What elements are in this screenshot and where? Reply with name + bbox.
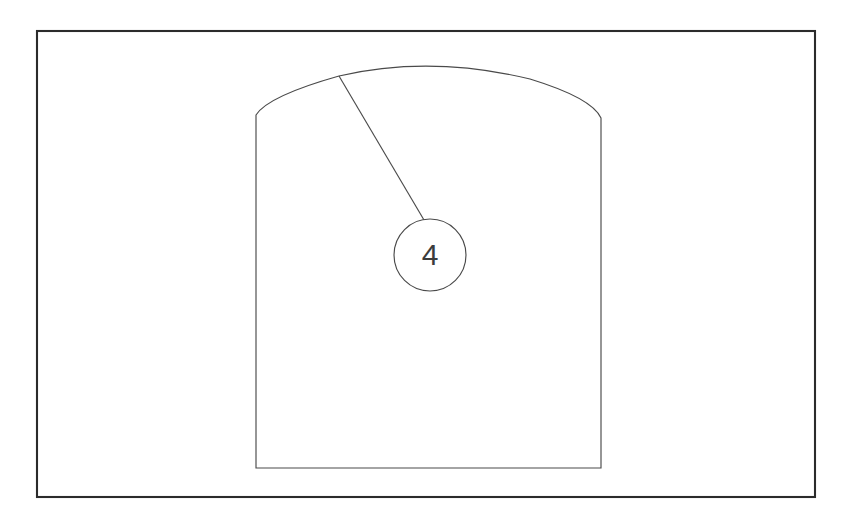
cad-drawing-svg: 4 — [0, 0, 852, 517]
technical-drawing-canvas: 4 — [0, 0, 852, 517]
balloon-label: 4 — [422, 238, 439, 271]
